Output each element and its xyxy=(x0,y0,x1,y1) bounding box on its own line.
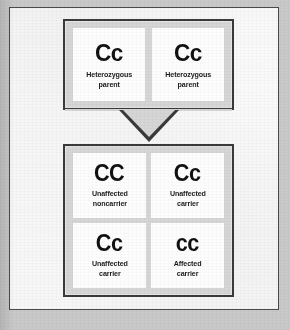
parent-cell-1: Cc Heterozygous parent xyxy=(73,28,145,101)
offspring-punnett-box: CC Unaffected noncarrier Cc Unaffected c… xyxy=(63,144,234,297)
offspring-cell-4: cc Affected carrier xyxy=(151,223,224,288)
offspring-caption-3: Unaffected carrier xyxy=(92,259,128,278)
offspring-caption-2: Unaffected carrier xyxy=(170,189,206,208)
parent-genotype-2: Cc xyxy=(174,41,202,65)
scanned-page: Cc Heterozygous parent Cc Heterozygous p… xyxy=(0,0,290,330)
offspring-genotype-4: cc xyxy=(176,232,199,255)
offspring-caption-4: Affected carrier xyxy=(174,259,202,278)
parent-caption-2: Heterozygous parent xyxy=(165,70,211,89)
diagram-frame: Cc Heterozygous parent Cc Heterozygous p… xyxy=(9,7,279,310)
offspring-genotype-1: CC xyxy=(94,162,124,185)
offspring-genotype-3: Cc xyxy=(96,232,123,255)
parent-genotype-1: Cc xyxy=(95,41,123,65)
parent-cell-2: Cc Heterozygous parent xyxy=(152,28,224,101)
offspring-cell-2: Cc Unaffected carrier xyxy=(151,153,224,218)
down-arrow-icon xyxy=(63,108,234,146)
offspring-cell-3: Cc Unaffected carrier xyxy=(73,223,146,288)
offspring-cell-1: CC Unaffected noncarrier xyxy=(73,153,146,218)
offspring-genotype-2: Cc xyxy=(174,162,201,185)
offspring-caption-1: Unaffected noncarrier xyxy=(92,189,128,208)
parent-generation-box: Cc Heterozygous parent Cc Heterozygous p… xyxy=(63,19,234,110)
parent-caption-1: Heterozygous parent xyxy=(86,70,132,89)
